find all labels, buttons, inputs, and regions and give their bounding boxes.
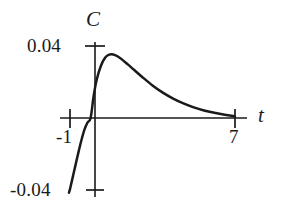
x-axis-label: t: [258, 105, 264, 126]
y-tick-label-min: -0.04: [10, 180, 51, 199]
x-tick-label-7: 7: [229, 127, 239, 146]
curve-c-of-t: [69, 54, 235, 192]
y-axis-label: C: [86, 9, 100, 30]
x-tick-label-neg-1: -1: [56, 127, 72, 146]
figure-graph-c-vs-t: C t 0.04 -0.04 -1 7: [0, 0, 289, 209]
plot-area: [0, 0, 289, 209]
y-tick-label-max: 0.04: [27, 36, 61, 55]
